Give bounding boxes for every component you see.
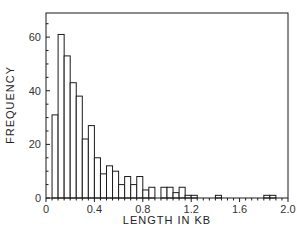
x-axis-label: LENGTH IN KB [123,214,211,226]
y-tick-label: 60 [29,31,41,43]
histogram-bar [161,187,167,198]
histogram-bars [52,34,276,198]
histogram-bar [173,193,179,198]
histogram-bar [88,126,94,198]
histogram-bar [70,83,76,198]
histogram-bar [167,187,173,198]
histogram-bar [58,34,64,198]
y-tick-label: 40 [29,85,41,97]
histogram-bar [94,158,100,198]
histogram-bar [131,185,137,198]
histogram-bar [107,166,113,198]
histogram-bar [119,185,125,198]
histogram-bar [137,177,143,198]
x-tick-label: 2.0 [280,203,295,215]
x-tick-label: 1.6 [232,203,247,215]
x-tick-label: 0 [43,203,49,215]
histogram-bar [143,190,149,198]
y-axis-ticks [46,24,50,198]
histogram-bar [76,96,82,198]
y-tick-label: 20 [29,138,41,150]
histogram-bar [125,177,131,198]
histogram-bar [149,187,155,198]
x-axis-ticks [46,198,288,202]
histogram-bar [52,115,58,198]
histogram-bar [82,139,88,198]
histogram-bar [100,174,106,198]
histogram-bar [64,56,70,198]
y-axis-label: FREQUENCY [4,66,16,144]
y-axis-tick-labels: 0204060 [29,31,41,204]
histogram-bar [179,187,185,198]
x-tick-label: 0.4 [87,203,102,215]
y-tick-label: 0 [35,192,41,204]
histogram-chart: 0204060 00.40.81.21.62.0 LENGTH IN KB FR… [0,0,297,239]
histogram-bar [113,171,119,198]
